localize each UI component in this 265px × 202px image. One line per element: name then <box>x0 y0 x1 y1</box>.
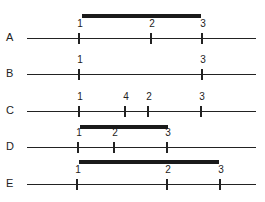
tick-label: 1 <box>76 128 82 138</box>
tick-label: 2 <box>165 165 171 175</box>
map-line <box>27 147 256 148</box>
tick-mark <box>77 142 79 153</box>
tick-label: 1 <box>77 19 83 29</box>
tick-label: 1 <box>77 55 83 65</box>
tick-label: 3 <box>200 55 206 65</box>
tick-mark <box>200 106 202 117</box>
row-label: B <box>6 68 13 79</box>
map-line <box>27 74 256 75</box>
tick-mark <box>201 33 203 44</box>
tick-mark <box>78 69 80 80</box>
row-label: C <box>6 105 14 116</box>
span-bar <box>79 160 219 164</box>
tick-mark <box>113 142 115 153</box>
row-b: B13 <box>0 74 265 75</box>
tick-mark <box>166 179 168 190</box>
tick-label: 2 <box>112 128 118 138</box>
tick-label: 1 <box>75 165 81 175</box>
row-label: D <box>6 141 14 152</box>
row-label: E <box>6 178 13 189</box>
tick-label: 3 <box>199 92 205 102</box>
row-e: E123 <box>0 184 265 185</box>
tick-mark <box>124 106 126 117</box>
tick-mark <box>78 33 80 44</box>
tick-mark <box>201 69 203 80</box>
span-bar <box>80 125 168 129</box>
tick-label: 2 <box>149 19 155 29</box>
tick-mark <box>166 142 168 153</box>
tick-label: 1 <box>77 92 83 102</box>
span-bar <box>82 14 201 18</box>
map-line <box>27 38 256 39</box>
tick-mark <box>76 179 78 190</box>
tick-label: 3 <box>165 128 171 138</box>
tick-label: 3 <box>200 19 206 29</box>
row-a: A123 <box>0 38 265 39</box>
row-d: D123 <box>0 147 265 148</box>
row-c: C1423 <box>0 111 265 112</box>
tick-label: 4 <box>123 92 129 102</box>
row-label: A <box>6 32 13 43</box>
map-line <box>27 184 256 185</box>
tick-label: 3 <box>218 165 224 175</box>
tick-mark <box>150 33 152 44</box>
tick-label: 2 <box>146 92 152 102</box>
map-line <box>27 111 256 112</box>
tick-mark <box>78 106 80 117</box>
tick-mark <box>147 106 149 117</box>
tick-mark <box>219 179 221 190</box>
